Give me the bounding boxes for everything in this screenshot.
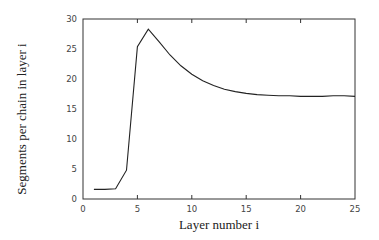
y-tick-label: 5 [72, 164, 77, 174]
x-tick-label: 15 [241, 204, 252, 214]
plot-frame [83, 19, 355, 199]
y-tick-label: 25 [66, 44, 77, 54]
x-tick-label: 0 [80, 204, 85, 214]
x-tick-label: 10 [186, 204, 197, 214]
y-tick-label: 15 [66, 104, 77, 114]
tick-labels: 0510152025051015202530 [66, 14, 360, 214]
y-tick-label: 10 [66, 134, 77, 144]
x-tick-label: 20 [295, 204, 306, 214]
axis-ticks [137, 19, 300, 199]
x-tick-label: 5 [135, 204, 140, 214]
x-axis-label: Layer number i [179, 217, 260, 232]
line-chart: 0510152025051015202530 Layer number i Se… [0, 0, 379, 240]
x-tick-label: 25 [350, 204, 361, 214]
y-axis-label: Segments per chain in layer i [14, 43, 29, 195]
y-tick-label: 20 [66, 74, 77, 84]
y-tick-label: 0 [72, 194, 77, 204]
y-tick-label: 30 [66, 14, 77, 24]
data-series-line [94, 29, 355, 189]
